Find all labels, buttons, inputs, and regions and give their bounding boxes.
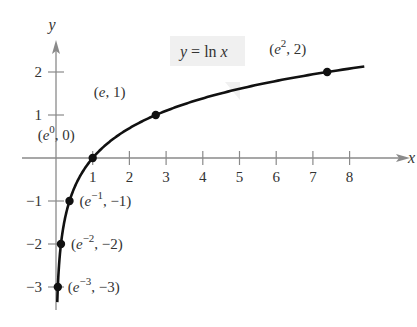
x-tick-label: 8: [346, 169, 354, 185]
y-tick-label: −1: [26, 193, 42, 209]
point-label: (e2, 2): [269, 37, 306, 58]
data-point: [152, 111, 160, 119]
point-label: (e0, 0): [38, 123, 75, 144]
point-label: (e, 1): [94, 84, 126, 101]
point-label: (e−3, −3): [68, 275, 120, 296]
x-tick-label: 1: [89, 169, 97, 185]
y-axis-label: y: [46, 16, 56, 34]
data-point: [54, 283, 62, 291]
x-tick-label: 5: [236, 169, 244, 185]
data-point: [57, 240, 65, 248]
data-point: [323, 68, 331, 76]
point-label: (e−2, −2): [71, 232, 123, 253]
ticks: 12345678−3−2−112: [26, 64, 353, 295]
function-label: y = ln x: [178, 43, 228, 61]
x-tick-label: 3: [162, 169, 170, 185]
y-tick-label: −2: [26, 236, 42, 252]
ln-graph: x y 12345678−3−2−112 y = ln x (e−3, −3)(…: [0, 0, 417, 327]
x-tick-label: 7: [309, 169, 317, 185]
y-tick-label: 1: [35, 107, 43, 123]
ln-curve: [57, 66, 364, 302]
x-tick-label: 6: [272, 169, 280, 185]
y-tick-label: −3: [26, 279, 42, 295]
x-axis-label: x: [407, 149, 415, 166]
y-tick-label: 2: [35, 64, 43, 80]
point-label: (e−1, −1): [80, 189, 132, 210]
points: (e−3, −3)(e−2, −2)(e−1, −1)(e0, 0)(e, 1)…: [38, 37, 332, 296]
x-tick-label: 4: [199, 169, 207, 185]
x-tick-label: 2: [126, 169, 134, 185]
data-point: [89, 154, 97, 162]
data-point: [65, 197, 73, 205]
